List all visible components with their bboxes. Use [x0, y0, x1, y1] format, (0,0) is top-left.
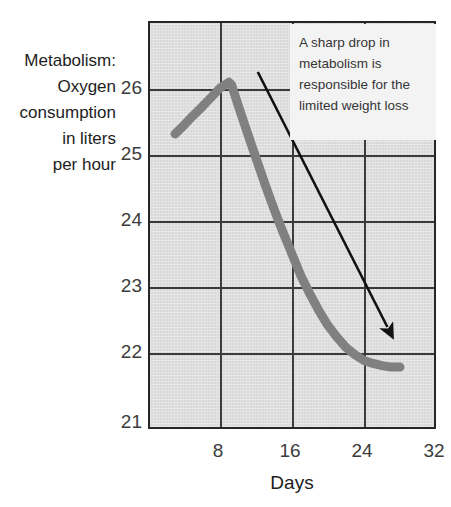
y-axis-title: Metabolism: Oxygen consumption in liters…: [0, 48, 116, 178]
y-tick-label-25: 25: [102, 144, 142, 163]
y-tick-label-21: 21: [102, 412, 142, 431]
metabolism-chart-figure: Metabolism: Oxygen consumption in liters…: [0, 0, 451, 507]
annotation-line-4: limited weight loss: [299, 95, 428, 116]
y-tick-label-26: 26: [102, 78, 142, 97]
gridline-x-8: [220, 23, 222, 427]
x-axis-title: Days: [148, 472, 436, 494]
annotation-line-2: metabolism is: [299, 53, 428, 74]
y-tick-label-22: 22: [102, 342, 142, 361]
y-tick-label-23: 23: [102, 276, 142, 295]
annotation-line-1: A sharp drop in: [299, 32, 428, 53]
annotation-line-3: responsible for the: [299, 74, 428, 95]
annotation-callout: A sharp drop in metabolism is responsibl…: [290, 24, 436, 140]
x-tick-label-32: 32: [412, 441, 451, 460]
y-tick-label-24: 24: [102, 210, 142, 229]
x-tick-label-8: 8: [196, 441, 240, 460]
x-tick-label-24: 24: [340, 441, 384, 460]
x-tick-label-16: 16: [268, 441, 312, 460]
